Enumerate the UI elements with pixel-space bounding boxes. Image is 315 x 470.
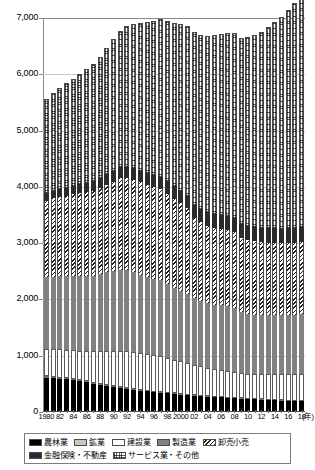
bar-89[interactable] [104, 48, 109, 412]
bar-segment-manu [77, 276, 82, 351]
legend-item-agri[interactable]: 農林業 [29, 438, 67, 447]
bar-83[interactable] [64, 83, 69, 412]
bar-82[interactable] [57, 88, 62, 412]
bar-11[interactable] [252, 35, 257, 412]
bar-segment-manu [192, 298, 197, 364]
bar-segment-fin [259, 228, 264, 242]
bar-segment-agri [98, 385, 103, 412]
bar-12[interactable] [259, 32, 264, 412]
bar-segment-whole [51, 198, 56, 276]
bar-segment-serv [252, 35, 257, 227]
bar-segment-manu [64, 276, 69, 349]
bar-81[interactable] [51, 93, 56, 412]
bar-segment-whole [151, 187, 156, 279]
bar-85[interactable] [77, 74, 82, 412]
bar-18[interactable] [299, 0, 304, 412]
bar-segment-fin [286, 228, 291, 243]
legend-item-mine[interactable]: 鉱業 [74, 438, 105, 447]
bar-segment-manu [44, 277, 49, 349]
bar-91[interactable] [118, 31, 123, 412]
legend-item-const[interactable]: 建設業 [112, 438, 150, 447]
legend-swatch-whole [203, 439, 216, 446]
bar-94[interactable] [138, 23, 143, 412]
bar-segment-fin [118, 167, 123, 178]
bar-92[interactable] [124, 26, 129, 412]
bar-segment-const [57, 349, 62, 377]
legend-item-fin[interactable]: 金融保険・不動産 [29, 451, 106, 460]
bar-16[interactable] [286, 10, 291, 412]
bar-segment-const [245, 374, 250, 399]
bar-97[interactable] [158, 19, 163, 412]
x-axis: 1980828486889092949698200002040608101214… [43, 413, 305, 425]
bar-segment-whole [185, 208, 190, 294]
bar-segment-whole [104, 185, 109, 273]
bar-88[interactable] [98, 57, 103, 412]
bar-99[interactable] [172, 23, 177, 412]
bar-segment-serv [172, 23, 177, 186]
bar-segment-manu [232, 308, 237, 372]
bar-04[interactable] [205, 36, 210, 412]
bar-15[interactable] [279, 17, 284, 412]
bar-segment-fin [138, 171, 143, 183]
bar-segment-const [292, 374, 297, 401]
bar-segment-const [77, 351, 82, 381]
bar-series-container [43, 18, 305, 412]
bar-segment-whole [64, 196, 69, 276]
bar-98[interactable] [165, 21, 170, 412]
bar-13[interactable] [266, 27, 271, 412]
bar-08[interactable] [232, 33, 237, 412]
bar-07[interactable] [225, 33, 230, 412]
bar-02[interactable] [192, 32, 197, 412]
bar-10[interactable] [245, 37, 250, 412]
bar-segment-serv [212, 35, 217, 214]
legend-swatch-agri [29, 439, 42, 446]
bar-segment-agri [77, 381, 82, 412]
bar-09[interactable] [239, 38, 244, 412]
bar-segment-serv [259, 32, 264, 228]
bar-95[interactable] [145, 22, 150, 412]
bar-05[interactable] [212, 35, 217, 412]
bar-segment-agri [84, 382, 89, 412]
bar-86[interactable] [84, 69, 89, 412]
bar-1980[interactable] [44, 99, 49, 412]
legend-item-serv[interactable]: サービス業・その他 [113, 451, 198, 460]
legend-row-1: 農林業鉱業建設業製造業卸売小売 [29, 436, 287, 449]
bar-segment-manu [158, 280, 163, 356]
x-axis-unit-label: (年) [302, 413, 314, 421]
bar-90[interactable] [111, 39, 116, 412]
bar-segment-const [165, 358, 170, 393]
bar-01[interactable] [185, 26, 190, 412]
bar-84[interactable] [71, 79, 76, 412]
y-axis-label-6000: 6,000 [0, 69, 38, 78]
bar-segment-fin [91, 181, 96, 191]
legend-row-2: 金融保険・不動産サービス業・その他 [29, 449, 287, 462]
bar-segment-serv [145, 22, 150, 173]
bar-segment-const [131, 352, 136, 389]
bar-2000[interactable] [178, 24, 183, 412]
bar-segment-whole [111, 182, 116, 271]
bar-segment-serv [165, 21, 170, 181]
bar-segment-whole [205, 226, 210, 304]
bar-96[interactable] [151, 21, 156, 412]
bar-segment-fin [192, 205, 197, 218]
bar-87[interactable] [91, 64, 96, 412]
bar-segment-agri [145, 391, 150, 412]
x-axis-label-90: 90 [109, 413, 119, 421]
bar-93[interactable] [131, 24, 136, 412]
bar-segment-fin [131, 168, 136, 180]
legend-item-manu[interactable]: 製造業 [157, 438, 195, 447]
bar-17[interactable] [292, 3, 297, 412]
bar-14[interactable] [272, 22, 277, 412]
bar-segment-serv [118, 31, 123, 167]
y-axis-tick-6000 [39, 74, 43, 75]
bar-segment-fin [299, 227, 304, 242]
bar-segment-serv [91, 64, 96, 182]
y-axis-tick-4000 [39, 187, 43, 188]
bar-06[interactable] [219, 34, 224, 412]
bar-segment-fin [151, 175, 156, 187]
bar-segment-manu [279, 315, 284, 374]
bar-segment-serv [232, 33, 237, 218]
bar-03[interactable] [198, 35, 203, 412]
bar-segment-const [104, 351, 109, 385]
legend-item-whole[interactable]: 卸売小売 [203, 438, 249, 447]
